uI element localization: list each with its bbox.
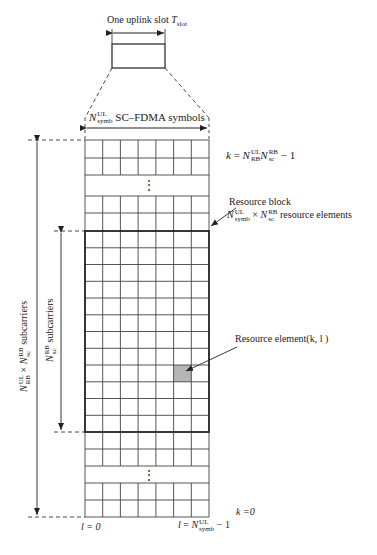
- total-n-sc-sub: sc: [25, 347, 32, 356]
- rb-n-symb: N: [227, 209, 234, 220]
- l-end-label: l = NULsymb − 1: [178, 519, 230, 533]
- equals: =: [234, 149, 240, 161]
- l-n-symb: N: [191, 519, 198, 530]
- times-sign: ×: [252, 209, 258, 220]
- symbols-label: NULsymb SC–FDMA symbols: [89, 111, 205, 125]
- ellipsis-lower: ⋮: [143, 469, 155, 481]
- symbols-text: SC–FDMA symbols: [115, 111, 205, 123]
- rb-n-sc-sub: sc: [268, 216, 277, 223]
- n-rb-sub: RB: [251, 156, 260, 163]
- resource-block-grid: [85, 231, 209, 432]
- resource-element-pointer: [186, 347, 237, 371]
- total-times: ×: [18, 367, 29, 373]
- resource-block-size: NULsymb × NRBsc resource elements: [227, 209, 352, 223]
- n-sc-sub: sc: [269, 156, 278, 163]
- n-rb: N: [243, 149, 250, 161]
- resource-block-title: Resource block: [229, 197, 291, 207]
- l-minus-one: − 1: [217, 519, 230, 530]
- top-index-label: k = NULRBNRBsc − 1: [226, 149, 295, 163]
- resource-element-label: Resource element(k, l ): [235, 334, 328, 344]
- n-sc: N: [260, 149, 267, 161]
- l-n-symb-sub: symb: [199, 526, 214, 533]
- l-start-label: l = 0: [81, 522, 101, 532]
- total-n-rb: N: [18, 385, 29, 392]
- rb-text: resource elements: [280, 209, 352, 220]
- rb-subcarriers-label: NRBsc subcarriers: [44, 299, 58, 362]
- uplink-slot-box: [112, 44, 165, 68]
- rbsc-text: subcarriers: [44, 299, 55, 343]
- uplink-slot-label: One uplink slot Tslot: [107, 15, 187, 25]
- total-text: subcarriers: [18, 301, 29, 345]
- rbsc-n: N: [44, 355, 55, 362]
- l-var: l: [178, 519, 181, 530]
- ellipsis-upper: ⋮: [143, 179, 155, 191]
- resource-element-shaded: [174, 365, 192, 382]
- total-n-sc: N: [18, 358, 29, 365]
- total-n-rb-sub: RB: [25, 375, 32, 384]
- l-equals: =: [183, 519, 189, 530]
- rbsc-sub: sc: [51, 345, 58, 354]
- slot-label-text: One uplink slot: [107, 14, 169, 25]
- slot-symbol-sub: slot: [177, 20, 187, 28]
- k-var: k: [226, 149, 231, 161]
- minus-one: − 1: [281, 149, 295, 161]
- rb-n-sc: N: [260, 209, 267, 220]
- bottom-index-label: k =0: [236, 507, 255, 517]
- rb-n-symb-sub: symb: [235, 216, 250, 223]
- symbols-sub: symb: [97, 118, 112, 125]
- symbols-n: N: [89, 111, 96, 123]
- resource-grid-diagram: [0, 0, 377, 555]
- total-subcarriers-label: NULRB × NRBsc subcarriers: [18, 301, 32, 392]
